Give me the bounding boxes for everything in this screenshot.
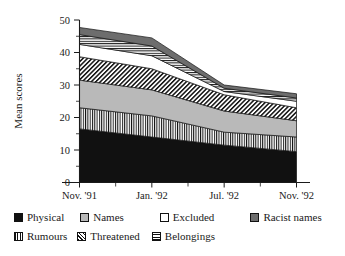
legend-item-excluded[interactable]: Excluded [160, 212, 215, 223]
y-tick-label-10: 10 [60, 145, 71, 156]
y-axis-tick-labels: 01020304050 [60, 15, 71, 189]
legend-item-racist-names[interactable]: Racist names [250, 212, 321, 223]
legend-label: Excluded [173, 212, 215, 223]
x-tick-label-3: Nov. '92 [279, 190, 314, 201]
legend-row-2: RumoursThreatenedBelongings [14, 227, 345, 246]
legend-swatch-solid-black-icon [14, 213, 23, 222]
plot-area: 01020304050 Nov. '91Jan. '92Jul. '92Nov.… [0, 0, 345, 205]
y-tick-label-30: 30 [60, 80, 71, 91]
legend-swatch-white-icon [160, 213, 169, 222]
stacked-bands [80, 27, 297, 182]
legend-swatch-light-gray-icon [80, 213, 89, 222]
x-tick-label-0: Nov. '91 [62, 190, 97, 201]
legend-item-belongings[interactable]: Belongings [152, 231, 215, 242]
x-axis-ticks [80, 183, 297, 188]
chart-svg: 01020304050 Nov. '91Jan. '92Jul. '92Nov.… [0, 0, 345, 205]
x-tick-label-1: Jan. '92 [136, 190, 168, 201]
y-axis-ticks [74, 20, 80, 183]
legend-row-1: PhysicalNamesExcludedRacist names [14, 208, 345, 227]
x-axis-tick-labels: Nov. '91Jan. '92Jul. '92Nov. '92 [62, 190, 314, 201]
y-tick-label-50: 50 [60, 15, 71, 26]
legend-item-threatened[interactable]: Threatened [77, 231, 139, 242]
legend-swatch-vertical-icon [14, 232, 23, 241]
legend-swatch-horizontal-icon [152, 232, 161, 241]
legend-swatch-diagonal-icon [77, 232, 86, 241]
legend-label: Physical [27, 212, 64, 223]
legend-label: Threatened [90, 231, 139, 242]
legend-swatch-dark-gray-icon [250, 213, 259, 222]
legend-item-names[interactable]: Names [80, 212, 124, 223]
y-tick-label-40: 40 [60, 47, 71, 58]
y-axis-title: Mean scores [12, 73, 24, 128]
x-tick-label-2: Jul. '92 [209, 190, 239, 201]
legend-label: Racist names [263, 212, 321, 223]
y-tick-label-20: 20 [60, 112, 71, 123]
y-tick-label-0: 0 [65, 177, 70, 188]
chart-legend: PhysicalNamesExcludedRacist names Rumour… [0, 206, 345, 256]
legend-label: Rumours [27, 231, 67, 242]
stacked-area-chart-figure: 01020304050 Nov. '91Jan. '92Jul. '92Nov.… [0, 0, 345, 256]
legend-label: Names [93, 212, 124, 223]
legend-item-rumours[interactable]: Rumours [14, 231, 67, 242]
legend-label: Belongings [165, 231, 215, 242]
legend-item-physical[interactable]: Physical [14, 212, 64, 223]
